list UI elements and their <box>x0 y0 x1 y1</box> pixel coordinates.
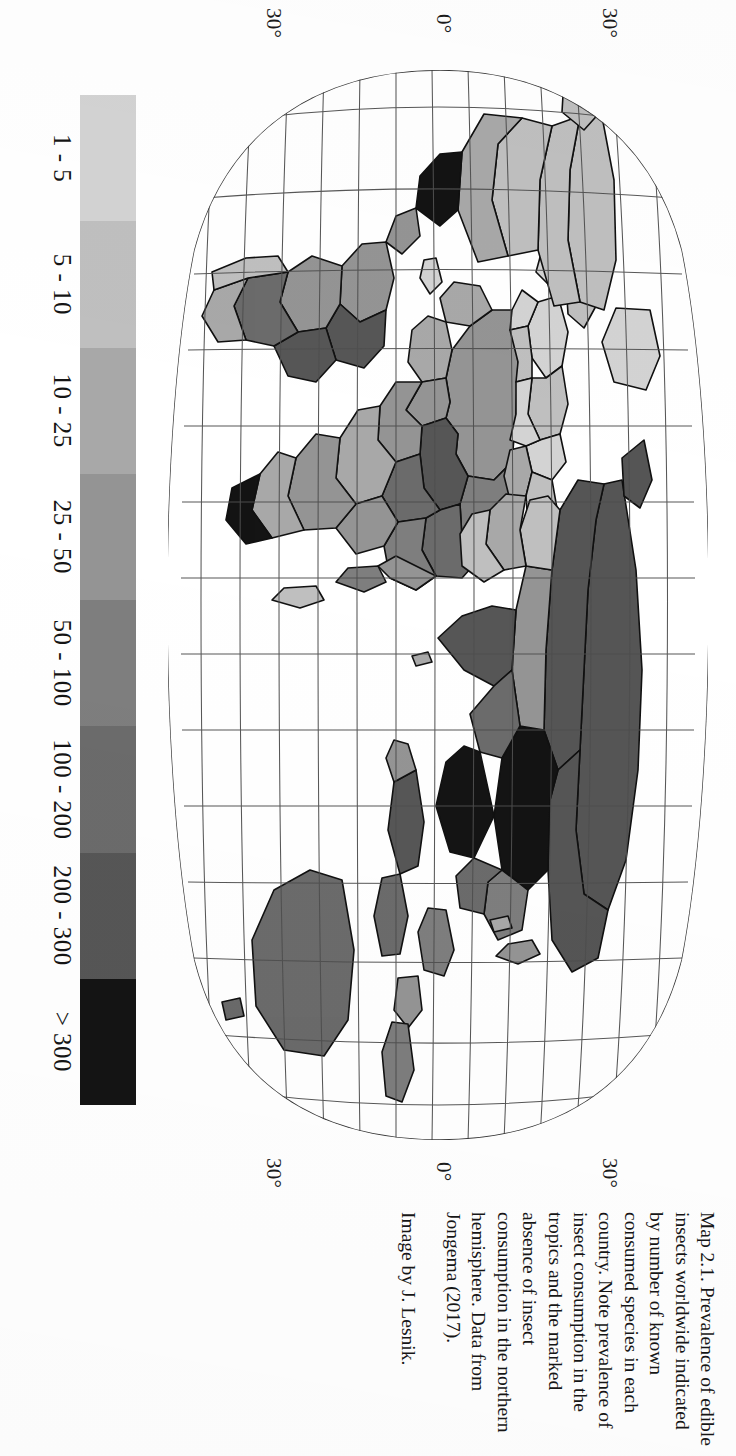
legend-swatch-200-300 <box>80 853 136 979</box>
legend-swatch-10-25 <box>80 348 136 474</box>
legend-label-row: 1 - 5 5 - 10 10 - 25 25 - 50 50 - 100 10… <box>48 95 76 1105</box>
lat-label-right-30n: 30° <box>597 1158 622 1188</box>
legend-color-bar <box>80 95 136 1105</box>
legend-swatch-5-10 <box>80 221 136 347</box>
lat-label-right-0: 0° <box>431 1162 456 1181</box>
world-map-svg <box>168 10 708 1190</box>
caption-body: Map 2.1. Prevalence of edible insects wo… <box>441 1212 720 1448</box>
figure-map-2-1: 30° 0° 30° 30° 0° 30° 1 - 5 5 - 10 <box>0 0 736 1200</box>
book-page: 30° 0° 30° 30° 0° 30° 1 - 5 5 - 10 <box>0 0 736 1456</box>
legend-swatch-25-50 <box>80 474 136 600</box>
figure-caption: Map 2.1. Prevalence of edible insects wo… <box>395 1212 720 1448</box>
lat-label-left-0: 0° <box>431 14 456 33</box>
lat-label-left-30n: 30° <box>597 8 622 38</box>
legend-label-100-200: 100 - 200 <box>48 726 76 852</box>
legend-swatch-50-100 <box>80 600 136 726</box>
legend-swatch-100-200 <box>80 726 136 852</box>
legend-label-200-300: 200 - 300 <box>48 853 76 979</box>
map-legend: 1 - 5 5 - 10 10 - 25 25 - 50 50 - 100 10… <box>26 95 136 1105</box>
legend-label-50-100: 50 - 100 <box>48 600 76 726</box>
lat-label-right-30s: 30° <box>261 1158 286 1188</box>
legend-label-1-5: 1 - 5 <box>48 95 76 221</box>
legend-label-over-300: > 300 <box>48 979 76 1105</box>
legend-label-5-10: 5 - 10 <box>48 221 76 347</box>
legend-label-10-25: 10 - 25 <box>48 348 76 474</box>
world-map: 30° 0° 30° 30° 0° 30° <box>168 10 708 1190</box>
map-body <box>168 10 708 1190</box>
legend-label-25-50: 25 - 50 <box>48 474 76 600</box>
caption-credit: Image by J. Lesnik. <box>395 1212 420 1448</box>
lat-label-left-30s: 30° <box>261 8 286 38</box>
legend-swatch-1-5 <box>80 95 136 221</box>
legend-swatch-over-300 <box>80 979 136 1105</box>
